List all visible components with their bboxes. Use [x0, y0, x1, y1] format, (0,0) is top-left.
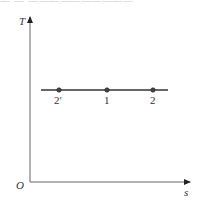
state-point-2 — [151, 88, 155, 92]
y-axis-label: T — [19, 15, 26, 27]
ts-diagram: T s O 2′ 1 2 — [0, 0, 203, 204]
x-axis-label: s — [184, 186, 188, 198]
state-point-2prime — [57, 88, 61, 92]
point-label-1: 1 — [104, 94, 110, 106]
point-label-2: 2 — [150, 94, 156, 106]
state-point-1 — [105, 88, 109, 92]
origin-label: O — [16, 179, 24, 191]
point-label-2prime: 2′ — [54, 94, 62, 106]
